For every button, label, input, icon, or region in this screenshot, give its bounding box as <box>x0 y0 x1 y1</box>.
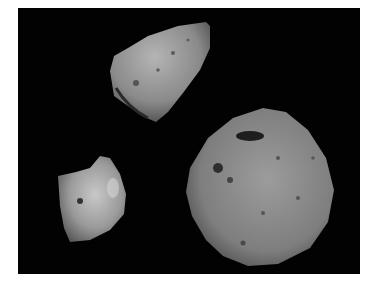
space-scene <box>18 8 360 274</box>
image-panel <box>18 8 360 274</box>
deimos-moon <box>58 156 126 242</box>
phobos-moon <box>186 108 334 266</box>
gaspra-asteroid <box>110 22 210 122</box>
